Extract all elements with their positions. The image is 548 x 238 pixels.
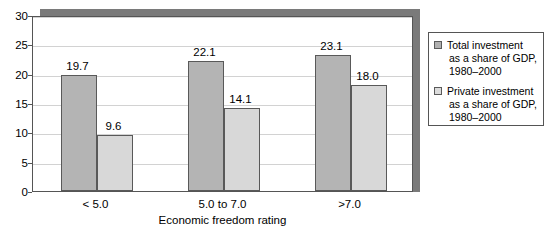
y-axis-tick-label: 5 — [0, 157, 28, 169]
bar-total — [188, 61, 224, 191]
bar-private — [224, 108, 260, 191]
legend-label-line: 1980–2000 — [447, 111, 539, 124]
bar-chart-figure: 051015202530 19.79.622.114.123.118.0 < 5… — [0, 0, 548, 238]
bar-value-label: 22.1 — [177, 46, 233, 58]
x-axis-title: Economic freedom rating — [32, 214, 413, 227]
bar-value-label: 19.7 — [50, 60, 106, 72]
legend-label-line: Private investment — [447, 85, 539, 98]
y-axis-tick-label: 20 — [0, 69, 28, 81]
bar-private — [97, 135, 133, 191]
bar-value-label: 14.1 — [213, 93, 269, 105]
plot-right-shadow-band — [413, 9, 420, 192]
bar-total — [61, 75, 97, 191]
plot-top-shadow-band — [40, 9, 420, 16]
legend-entry: Private investmentas a share of GDP,1980… — [434, 85, 539, 124]
legend-label-line: 1980–2000 — [447, 65, 539, 78]
legend-swatch-total — [434, 41, 442, 49]
gridline — [33, 17, 412, 18]
y-axis-tick-label: 0 — [0, 186, 28, 198]
y-axis-tick-label: 25 — [0, 39, 28, 51]
bar-value-label: 9.6 — [86, 120, 142, 132]
x-axis-category-label: 5.0 to 7.0 — [173, 198, 273, 211]
legend-label-line: as a share of GDP, — [447, 52, 539, 65]
chart-legend: Total investmentas a share of GDP,1980–2… — [428, 32, 544, 126]
y-axis-tick-label: 15 — [0, 98, 28, 110]
legend-label-line: Total investment — [447, 39, 539, 52]
legend-label: Private investmentas a share of GDP,1980… — [447, 85, 539, 124]
y-axis-tick-label: 30 — [0, 10, 28, 22]
legend-label-line: as a share of GDP, — [447, 98, 539, 111]
legend-label: Total investmentas a share of GDP,1980–2… — [447, 39, 539, 78]
legend-swatch-private — [434, 87, 442, 95]
y-axis-tick-label: 10 — [0, 127, 28, 139]
bar-value-label: 23.1 — [304, 40, 360, 52]
y-axis-tick-mark — [28, 192, 32, 193]
bar-private — [351, 85, 387, 191]
legend-entry: Total investmentas a share of GDP,1980–2… — [434, 39, 539, 78]
x-axis-category-label: < 5.0 — [46, 198, 146, 211]
bar-value-label: 18.0 — [340, 70, 396, 82]
x-axis-category-label: >7.0 — [300, 198, 400, 211]
